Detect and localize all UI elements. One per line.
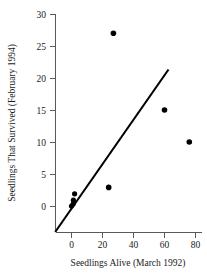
data-point (72, 191, 77, 196)
data-point (106, 185, 112, 191)
y-tick-label-30: 30 (37, 10, 47, 20)
x-tick-label-20: 20 (98, 240, 108, 250)
y-tick-label-10: 10 (37, 138, 47, 148)
y-axis-title: Seedlings That Survived (February 1994) (7, 44, 18, 202)
data-point (187, 139, 193, 145)
y-tick-label-15: 15 (37, 106, 47, 116)
data-point (111, 30, 117, 36)
x-axis-title: Seedlings Alive (March 1992) (71, 258, 186, 269)
data-points-group (69, 30, 192, 208)
x-axis-ticks (72, 233, 196, 239)
y-tick-label-0: 0 (41, 202, 46, 212)
y-tick-label-20: 20 (37, 74, 47, 84)
plot-canvas: 30 25 20 15 10 5 0 0 20 40 60 80 (0, 0, 207, 273)
data-point (71, 198, 76, 203)
y-tick-label-25: 25 (37, 42, 47, 52)
y-tick-label-5: 5 (41, 170, 46, 180)
y-axis-ticks (50, 15, 56, 207)
x-tick-label-60: 60 (160, 240, 170, 250)
x-tick-label-80: 80 (191, 240, 201, 250)
x-tick-label-0: 0 (69, 240, 74, 250)
data-point (162, 107, 168, 113)
x-tick-label-40: 40 (129, 240, 139, 250)
scatter-plot-figure: 30 25 20 15 10 5 0 0 20 40 60 80 (0, 0, 207, 273)
